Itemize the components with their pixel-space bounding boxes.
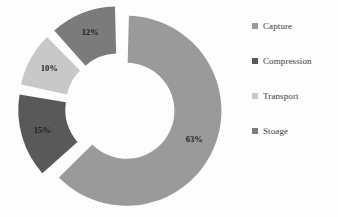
- slice-capture-label: 63%: [186, 134, 203, 144]
- doughnut-svg: 63% 15% 10% 12%: [0, 0, 240, 217]
- slice-compression-label: 15%: [34, 125, 51, 135]
- slice-compression[interactable]: 15%: [18, 95, 77, 174]
- slice-transport-label: 10%: [41, 63, 58, 73]
- legend-swatch-icon: [252, 23, 258, 29]
- slice-stoage-label: 12%: [82, 27, 99, 37]
- legend-item-label: Transport: [263, 91, 299, 101]
- legend-item-label: Compression: [263, 56, 312, 66]
- doughnut-chart: 63% 15% 10% 12% Capture Compression: [0, 0, 338, 217]
- legend-item-transport[interactable]: Transport: [252, 90, 338, 101]
- legend-item-label: Capture: [263, 21, 292, 31]
- legend-swatch-icon: [252, 58, 258, 64]
- legend-swatch-icon: [252, 93, 258, 99]
- legend-item-label: Stoage: [263, 126, 288, 136]
- chart-plot-area: 63% 15% 10% 12%: [0, 0, 240, 217]
- legend-swatch-icon: [252, 128, 258, 134]
- legend-item-compression[interactable]: Compression: [252, 55, 338, 66]
- chart-legend: Capture Compression Transport Stoage: [252, 20, 338, 160]
- legend-item-capture[interactable]: Capture: [252, 20, 338, 31]
- legend-item-stoage[interactable]: Stoage: [252, 125, 338, 136]
